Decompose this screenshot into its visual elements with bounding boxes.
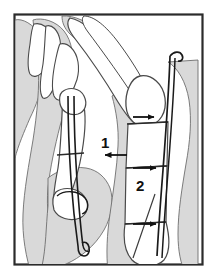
bone-finger1-condyle <box>60 89 86 115</box>
label-2: 2 <box>136 177 144 194</box>
label-1: 1 <box>101 134 109 151</box>
anatomical-illustration: 1 2 <box>0 0 217 279</box>
bone-finger2-proximal-segment <box>126 122 168 168</box>
figure-container: 1 2 <box>0 0 217 279</box>
